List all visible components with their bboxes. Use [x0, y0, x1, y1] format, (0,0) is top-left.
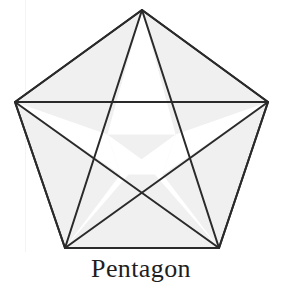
- figure-caption: Pentagon: [0, 252, 282, 286]
- pentagon-diagram: [0, 0, 282, 288]
- pentagon-figure: Pentagon: [0, 0, 282, 288]
